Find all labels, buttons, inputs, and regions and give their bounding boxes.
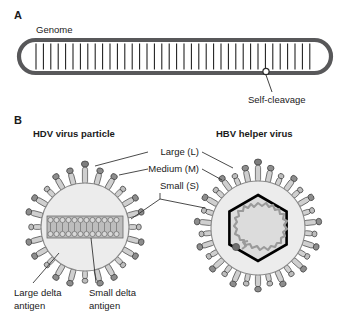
medium-protein-label: Medium (M) — [148, 163, 199, 174]
self-cleavage-leader-line — [266, 75, 272, 92]
large-delta-antigen-label-line2: antigen — [14, 300, 45, 311]
hbv-helper-virus-title: HBV helper virus — [216, 128, 293, 139]
large-protein-label: Large (L) — [160, 146, 199, 157]
panel-b: B HDV virus particle HBV helper virus — [14, 114, 322, 311]
hdv-hbv-figure: A Genome — [0, 0, 350, 321]
small-delta-antigen-label-line1: Small delta — [89, 287, 137, 298]
small-delta-antigen-label-line2: antigen — [89, 300, 120, 311]
hdv-virus-particle — [25, 161, 145, 287]
panel-a-letter: A — [14, 9, 22, 21]
self-cleavage-site-marker — [263, 68, 269, 74]
hbv-polymerase-dot — [232, 243, 239, 250]
hbv-helper-virus-particle — [194, 159, 322, 292]
large-delta-antigen-label-line1: Large delta — [14, 287, 62, 298]
genome-label: Genome — [36, 24, 72, 35]
small-protein-label: Small (S) — [160, 180, 199, 191]
panel-b-letter: B — [14, 114, 22, 126]
hdv-particle-title: HDV virus particle — [33, 128, 115, 139]
hdv-ribonucleoprotein — [47, 216, 123, 238]
panel-a: A Genome — [14, 9, 331, 105]
self-cleavage-label: Self-cleavage — [248, 94, 306, 105]
genome-diagram — [19, 40, 331, 92]
